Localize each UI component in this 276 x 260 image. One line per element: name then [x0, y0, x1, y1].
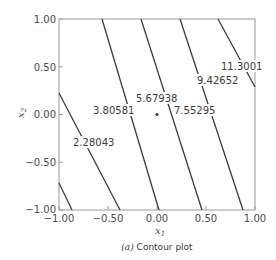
x-tick-label: 0.00	[146, 213, 168, 224]
x-tick-label: −0.50	[93, 213, 124, 224]
contour-label: 2.28043	[73, 137, 114, 148]
x-tick-label: −1.00	[44, 213, 75, 224]
contour-label: 7.55295	[174, 105, 215, 116]
contour-label: 11.3001	[221, 61, 262, 72]
contour-label: 9.42652	[197, 75, 238, 86]
figure-caption: (a) Contour plot	[121, 242, 193, 252]
x-axis-title: x1	[155, 225, 165, 238]
contour-labels: 11.3001 9.42652 5.67938 3.80581 7.55295 …	[72, 60, 262, 148]
svg-text:x2: x2	[15, 107, 28, 118]
x-tick-label: 0.50	[195, 213, 217, 224]
y-tick-label: 0.00	[34, 109, 56, 120]
y-tick-label: 0.50	[34, 62, 56, 73]
contour-label: 5.67938	[136, 93, 177, 104]
y-axis: 1.00 0.50 0.00 −0.50 −1.00	[25, 14, 63, 215]
center-point-marker	[155, 113, 158, 116]
y-tick-label: −0.50	[25, 157, 56, 168]
y-axis-title: x2	[15, 107, 28, 118]
contour-plot: 1.00 0.50 0.00 −0.50 −1.00 −1.00 −0.50 0…	[0, 0, 276, 260]
contour-label: 3.80581	[93, 105, 134, 116]
y-tick-label: 1.00	[34, 14, 56, 25]
contour-line	[59, 183, 72, 210]
x-tick-label: 1.00	[244, 213, 266, 224]
x-axis: −1.00 −0.50 0.00 0.50 1.00	[44, 206, 266, 224]
